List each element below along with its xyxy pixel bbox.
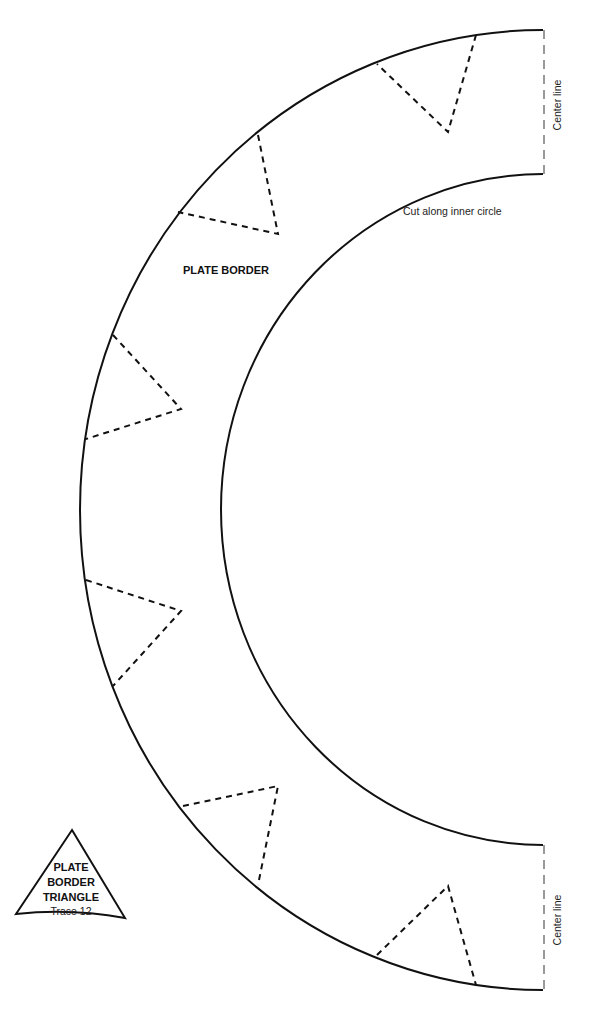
inner-arc	[221, 174, 543, 845]
trace-line-4: Trace 12	[50, 905, 91, 917]
center-line-label-top: Center line	[551, 79, 563, 130]
fold-triangle-3	[86, 335, 181, 439]
fold-triangle-6	[377, 886, 476, 985]
center-line-label-bottom: Center line	[551, 894, 563, 945]
fold-triangle-4	[86, 580, 181, 686]
trace-line-3: TRIANGLE	[43, 891, 99, 903]
fold-triangle-1	[377, 35, 476, 132]
fold-triangle-2	[178, 135, 278, 234]
fold-triangle-5	[183, 786, 278, 885]
trace-line-1: PLATE	[53, 861, 88, 873]
outer-arc	[80, 30, 543, 990]
plate-border-title: PLATE BORDER	[183, 264, 269, 276]
cut-instruction-label: Cut along inner circle	[403, 205, 502, 217]
plate-border-template: PLATE BORDER Cut along inner circle Cent…	[0, 0, 600, 1015]
trace-triangle-piece: PLATE BORDER TRIANGLE Trace 12	[16, 830, 125, 918]
trace-line-2: BORDER	[47, 876, 95, 888]
